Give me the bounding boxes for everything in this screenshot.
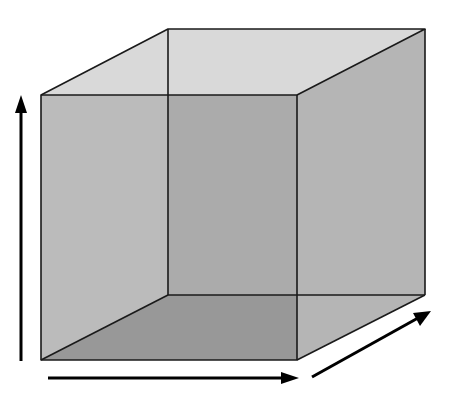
cube-diagram	[0, 0, 451, 393]
vertical-axis-arrow	[15, 95, 27, 361]
cube-front-face	[41, 95, 297, 360]
horizontal-axis-arrow	[48, 372, 299, 384]
arrow-up-icon	[15, 95, 27, 113]
arrow-right-icon	[281, 372, 299, 384]
